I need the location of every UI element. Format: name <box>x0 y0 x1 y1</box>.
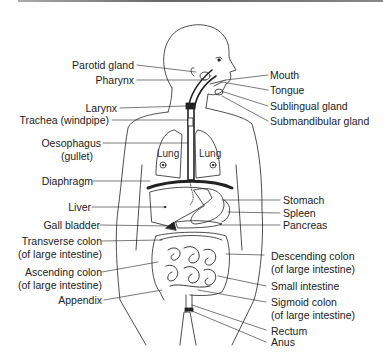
torso-left <box>116 112 168 345</box>
label-sublingual-gland: Sublingual gland <box>270 100 348 112</box>
label-tongue: Tongue <box>270 84 304 96</box>
label-stomach: Stomach <box>283 194 324 206</box>
label-spleen: Spleen <box>283 207 316 219</box>
label-sigmoid-colon: Sigmoid colon <box>271 296 337 308</box>
stomach <box>191 189 224 224</box>
small-intestine <box>166 247 216 288</box>
label-anus: Anus <box>271 336 295 348</box>
large-intestine <box>152 232 230 300</box>
label-ascending-colon: Ascending colon <box>25 266 102 278</box>
label-lung-left: Lung <box>157 148 179 159</box>
pancreas <box>176 221 222 228</box>
label-mouth: Mouth <box>270 69 299 81</box>
label-transverse-colon-sub: (of large intestine) <box>18 248 102 260</box>
label-appendix: Appendix <box>58 294 102 306</box>
neck-left <box>168 88 172 112</box>
label-transverse-colon: Transverse colon <box>22 235 102 247</box>
label-oesophagus-gullet: (gullet) <box>61 150 93 162</box>
label-larynx: Larynx <box>85 102 117 114</box>
label-lung-right: Lung <box>199 148 221 159</box>
label-gall-bladder: Gall bladder <box>43 219 100 231</box>
label-pancreas: Pancreas <box>283 219 327 231</box>
label-diaphragm: Diaphragm <box>42 175 93 187</box>
label-oesophagus: Oesophagus <box>41 137 101 149</box>
spleen <box>222 200 230 222</box>
label-trachea: Trachea (windpipe) <box>20 114 110 126</box>
label-pharynx: Pharynx <box>95 74 134 86</box>
label-descending-colon: Descending colon <box>271 250 354 262</box>
label-submandibular-gland: Submandibular gland <box>270 115 369 127</box>
label-descending-colon-sub: (of large intestine) <box>271 263 355 275</box>
label-ascending-colon-sub: (of large intestine) <box>18 279 102 291</box>
head-outline <box>164 25 236 108</box>
label-small-intestine: Small intestine <box>271 280 339 292</box>
label-liver: Liver <box>68 201 91 213</box>
label-parotid-gland: Parotid gland <box>72 59 134 71</box>
label-sigmoid-colon-sub: (of large intestine) <box>271 309 355 321</box>
